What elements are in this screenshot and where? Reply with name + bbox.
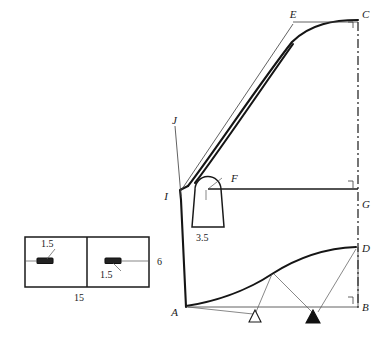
leader-D-to-filled-triangle bbox=[318, 249, 356, 312]
left-flank-outline bbox=[180, 186, 188, 307]
filled-triangle-support-marker bbox=[306, 310, 320, 323]
open-triangle-support-marker bbox=[249, 310, 261, 322]
right-slot-dimension-label: 1.5 bbox=[100, 269, 113, 280]
point-label-D: D bbox=[361, 242, 370, 254]
inner-flank-line bbox=[195, 44, 293, 183]
right-angle-mark-G bbox=[348, 181, 353, 188]
leader-curve-to-filled-triangle bbox=[274, 274, 312, 312]
right-angle-mark-C bbox=[348, 22, 353, 28]
right-angle-mark-B bbox=[348, 297, 353, 304]
right-slot-feature bbox=[105, 258, 121, 264]
right-slot-leader-line bbox=[113, 263, 121, 271]
left-view-height-dimension: 6 bbox=[157, 256, 162, 267]
point-label-J: J bbox=[172, 114, 178, 126]
left-view-width-dimension: 15 bbox=[74, 292, 84, 303]
left-slot-dimension-label: 1.5 bbox=[41, 238, 54, 249]
leader-A-to-open-triangle bbox=[188, 307, 253, 314]
point-label-B: B bbox=[362, 301, 369, 313]
drawing-canvas: 1.5 1.5 15 6 bbox=[0, 0, 389, 342]
point-label-C: C bbox=[362, 8, 370, 20]
left-view-group: 1.5 1.5 15 6 bbox=[25, 237, 162, 303]
boss-width-dimension: 3.5 bbox=[196, 232, 209, 243]
construction-line-I-to-E bbox=[180, 24, 293, 192]
upper-outer-curve-to-C bbox=[188, 20, 358, 186]
point-label-G: G bbox=[362, 198, 370, 210]
left-slot-feature bbox=[37, 258, 53, 264]
point-label-I: I bbox=[163, 190, 169, 202]
point-label-F: F bbox=[230, 172, 238, 184]
boss-feature-F bbox=[192, 177, 224, 227]
point-label-A: A bbox=[170, 306, 178, 318]
construction-line-J bbox=[175, 126, 181, 196]
point-label-E: E bbox=[289, 8, 297, 20]
right-view-group: 3.5 E C J I F G D B A bbox=[163, 8, 370, 323]
